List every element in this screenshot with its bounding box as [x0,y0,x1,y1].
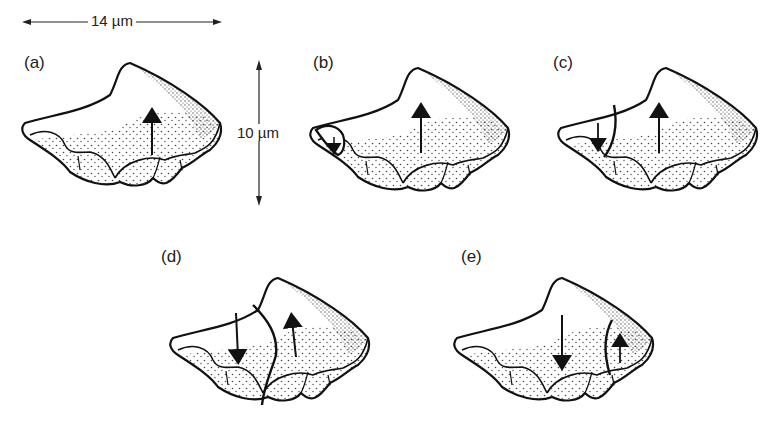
particle-drawing-d [168,275,383,420]
particle-drawing-a [20,60,230,200]
panel-label-e: (e) [461,247,482,267]
particle-drawing-b [308,65,518,205]
vertical-scale-label: 10 µm [234,124,282,141]
panel-c [556,65,764,205]
panel-e [452,275,667,420]
particle-drawing-e [452,275,667,420]
horizontal-scale-bar: 14 µm [22,10,222,34]
panel-label-d: (d) [161,247,182,267]
horizontal-scale-label: 14 µm [88,12,136,29]
vertical-scale-bar: 10 µm [232,60,302,206]
panel-b [308,65,518,205]
particle-drawing-c [556,65,764,205]
panel-d [168,275,383,420]
panel-a [20,60,230,200]
